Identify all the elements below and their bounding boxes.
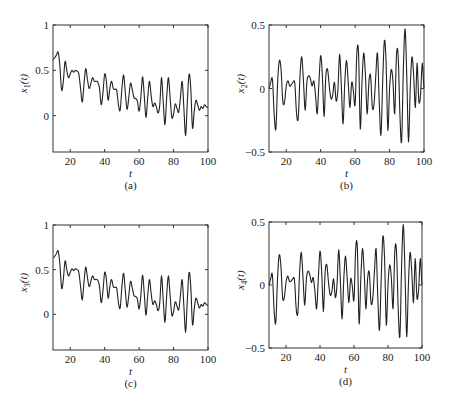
series-line-b <box>269 29 424 143</box>
x-tick-label: 80 <box>384 155 396 167</box>
y-axis-label: x1(t) <box>17 74 32 95</box>
x-axis-label: t <box>344 363 348 375</box>
x-tick-label: 60 <box>134 353 146 365</box>
y-axis-label: x4(t) <box>234 270 249 291</box>
y-axis-label: x2(t) <box>234 74 249 95</box>
x-tick-label: 40 <box>315 351 327 363</box>
x-tick-label: 80 <box>168 353 180 365</box>
x-tick-label: 100 <box>200 155 217 167</box>
x-tick-label: 60 <box>350 155 362 167</box>
x-axis-label: t <box>129 365 133 377</box>
x-tick-label: 20 <box>65 353 77 365</box>
y-tick-label: 0.5 <box>35 64 49 76</box>
x-tick-label: 100 <box>200 353 217 365</box>
x-tick-label: 20 <box>65 155 77 167</box>
x-axis-label: t <box>345 167 349 179</box>
y-axis-label: x3(t) <box>17 273 32 294</box>
x-tick-label: 20 <box>281 351 293 363</box>
x-tick-label: 20 <box>281 155 293 167</box>
y-tick-label: −0.5 <box>245 146 265 158</box>
x-tick-label: 60 <box>134 155 146 167</box>
x-tick-label: 40 <box>99 155 111 167</box>
x-axis-label: t <box>129 167 133 179</box>
panel-caption: (a) <box>124 179 137 192</box>
figure-canvas: 2040608010000.51t(a)x1(t)20406080100−0.5… <box>0 0 450 405</box>
y-tick-label: 0 <box>44 110 50 122</box>
y-tick-label: 0.5 <box>251 216 265 228</box>
y-tick-label: 1 <box>44 19 50 31</box>
panel-caption: (b) <box>340 179 353 192</box>
x-tick-label: 60 <box>349 351 361 363</box>
series-line-a <box>53 52 208 136</box>
y-tick-label: 0 <box>260 279 266 291</box>
x-tick-label: 80 <box>168 155 180 167</box>
panel-c: 2040608010000.51t(c)x3(t) <box>17 219 217 390</box>
panel-b: 20406080100−0.500.5t(b)x2(t) <box>234 19 433 192</box>
panel-a: 2040608010000.51t(a)x1(t) <box>17 19 217 192</box>
y-tick-label: −0.5 <box>245 342 265 354</box>
y-tick-label: 1 <box>44 219 50 231</box>
y-tick-label: 0 <box>260 83 266 95</box>
x-tick-label: 40 <box>315 155 327 167</box>
x-tick-label: 40 <box>99 353 111 365</box>
axes-box-c <box>53 225 208 350</box>
y-tick-label: 0.5 <box>251 19 265 31</box>
y-tick-label: 0.5 <box>35 264 49 276</box>
x-tick-label: 100 <box>416 155 433 167</box>
panel-d: 20406080100−0.500.5t(d)x4(t) <box>234 216 431 388</box>
panel-caption: (d) <box>339 375 352 388</box>
y-tick-label: 0 <box>44 308 50 320</box>
series-line-c <box>53 250 208 332</box>
panel-caption: (c) <box>124 377 137 390</box>
series-line-d <box>269 225 422 338</box>
x-tick-label: 80 <box>383 351 395 363</box>
x-tick-label: 100 <box>414 351 431 363</box>
